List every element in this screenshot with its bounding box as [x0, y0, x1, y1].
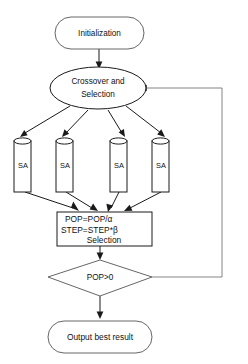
flowchart-svg: Initialization Crossover and Selection S… [0, 0, 248, 364]
node-update-process[interactable]: POP=POP/α STEP=STEP*β Selection [57, 212, 152, 246]
edge-decision-to-output [97, 296, 104, 319]
node-crossover-selection[interactable]: Crossover and Selection [50, 67, 146, 109]
sa-4-label: SA [156, 161, 166, 170]
crossover-selection-label-line2: Selection [81, 90, 115, 99]
edge-decision-feedback-to-crossover [139, 85, 222, 277]
edge-sa-3-to-update [106, 192, 119, 212]
node-sa-2[interactable]: SA [56, 138, 73, 192]
node-sa-4[interactable]: SA [152, 138, 169, 192]
edge-update-to-decision [97, 246, 104, 260]
edge-crossover-to-sa-3 [108, 110, 125, 137]
decision-pop-label: POP>0 [87, 273, 114, 282]
edge-crossover-to-sa-4 [126, 106, 165, 137]
edge-crossover-to-sa-2 [62, 110, 88, 137]
update-process-label-line1: POP=POP/α [65, 214, 113, 224]
flowchart-canvas: Initialization Crossover and Selection S… [0, 0, 248, 364]
sa-1-label: SA [18, 161, 28, 170]
edge-sa-2-to-update [66, 192, 98, 211]
node-initialization[interactable]: Initialization [55, 17, 144, 49]
node-output-best-result[interactable]: Output best result [48, 321, 152, 353]
output-best-result-label: Output best result [67, 332, 134, 342]
sa-2-label: SA [60, 161, 70, 170]
node-decision-pop[interactable]: POP>0 [48, 260, 152, 296]
edge-crossover-to-sa-1 [20, 106, 70, 137]
update-process-label-line2: STEP=STEP*β [61, 225, 118, 235]
node-sa-3[interactable]: SA [110, 138, 127, 192]
sa-3-label: SA [114, 161, 124, 170]
node-sa-1[interactable]: SA [14, 138, 31, 192]
crossover-selection-label-line1: Crossover and [71, 77, 125, 86]
update-process-label-line3: Selection [87, 235, 122, 245]
edge-init-to-crossover [96, 49, 103, 69]
edge-sa-4-to-update [124, 192, 161, 211]
initialization-label: Initialization [78, 29, 121, 38]
